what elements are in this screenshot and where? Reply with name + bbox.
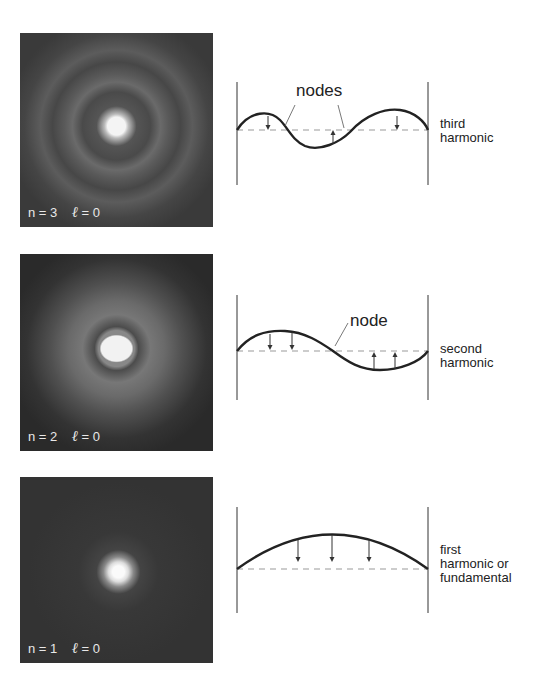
quantum-number-label: n = 3 ℓ = 0 (28, 204, 100, 221)
quantum-number-label: n = 2 ℓ = 0 (28, 428, 100, 445)
nodes-label: nodes (296, 81, 342, 101)
standing-wave-diagram-first (230, 500, 440, 620)
standing-wave-diagram-third: nodes (230, 70, 440, 200)
orbital-photo-n3: n = 3 ℓ = 0 (20, 33, 213, 227)
standing-wave-diagram-second: node (230, 290, 440, 410)
ell-symbol: ℓ (72, 428, 78, 444)
caption-third-harmonic: third harmonic (440, 117, 493, 145)
orbital-photo-n2: n = 2 ℓ = 0 (20, 254, 213, 451)
caption-first-harmonic: first harmonic or fundamental (440, 543, 512, 585)
caption-second-harmonic: second harmonic (440, 342, 493, 370)
ell-symbol: ℓ (72, 204, 78, 220)
ell-symbol: ℓ (72, 640, 78, 656)
quantum-number-label: n = 1 ℓ = 0 (28, 640, 100, 657)
node-label: node (350, 311, 388, 331)
orbital-photo-n1: n = 1 ℓ = 0 (20, 477, 213, 663)
